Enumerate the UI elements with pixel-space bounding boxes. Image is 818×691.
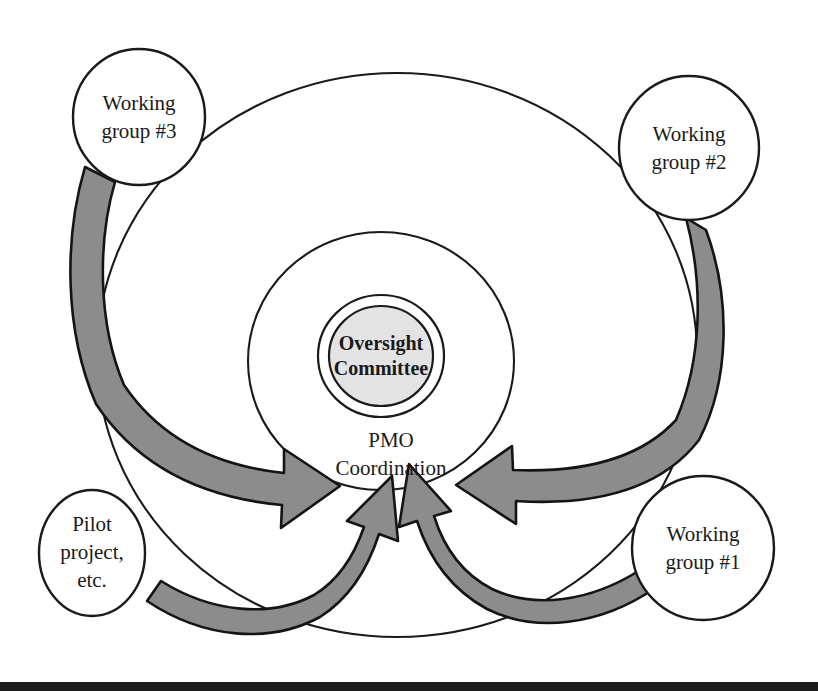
arrow-from-working-group-3 bbox=[70, 167, 340, 528]
working-group-2-circle[interactable] bbox=[619, 76, 759, 220]
pilot-project-label-line2: project, bbox=[60, 540, 124, 564]
diagram-canvas: Working group #3 Working group #2 Workin… bbox=[0, 0, 818, 691]
oversight-committee-label-line1: Oversight bbox=[339, 332, 424, 355]
working-group-3-circle[interactable] bbox=[73, 49, 205, 185]
node-working-group-3[interactable]: Working group #3 bbox=[73, 49, 205, 185]
pmo-coordination-label-line1: PMO bbox=[368, 428, 414, 452]
pmo-coordination-diagram: Working group #3 Working group #2 Workin… bbox=[0, 0, 818, 691]
pmo-coordination-label-line2: Coordination bbox=[336, 456, 447, 480]
pilot-project-label-line3: etc. bbox=[77, 568, 107, 592]
oversight-committee-label-line2: Committee bbox=[334, 357, 429, 379]
node-working-group-1[interactable]: Working group #1 bbox=[632, 476, 774, 620]
working-group-1-circle[interactable] bbox=[632, 476, 774, 620]
working-group-2-label-line1: Working bbox=[653, 122, 726, 146]
working-group-1-label-line2: group #1 bbox=[665, 550, 740, 574]
bottom-divider-bar bbox=[0, 682, 818, 691]
working-group-3-label-line1: Working bbox=[103, 91, 176, 115]
node-working-group-2[interactable]: Working group #2 bbox=[619, 76, 759, 220]
pilot-project-label-line1: Pilot bbox=[72, 512, 112, 536]
working-group-2-label-line2: group #2 bbox=[651, 150, 726, 174]
node-pilot-project[interactable]: Pilot project, etc. bbox=[39, 490, 145, 616]
working-group-1-label-line1: Working bbox=[667, 522, 740, 546]
working-group-3-label-line2: group #3 bbox=[101, 119, 176, 143]
